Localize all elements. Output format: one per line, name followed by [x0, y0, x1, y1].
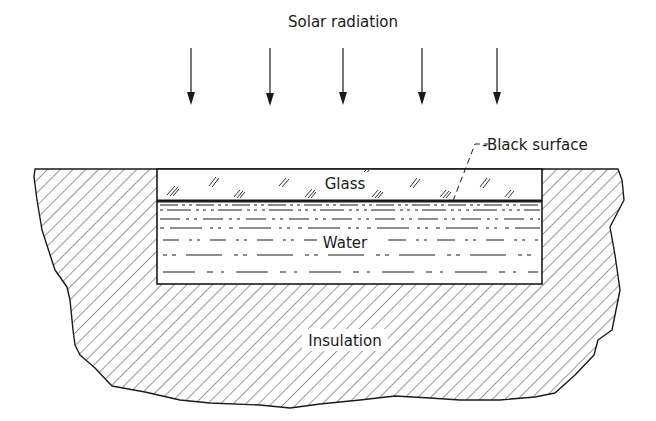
- water-label: Water: [323, 234, 368, 252]
- glass-label: Glass: [325, 175, 366, 193]
- arrowhead-icon: [339, 92, 347, 105]
- arrowhead-icon: [187, 92, 195, 105]
- solar-collector-diagram: Solar radiation: [0, 0, 656, 421]
- arrowhead-icon: [418, 92, 426, 105]
- solar-radiation-label: Solar radiation: [288, 13, 398, 31]
- black-surface-label: -Black surface: [482, 136, 588, 154]
- solar-radiation-arrows: [187, 48, 501, 106]
- insulation-label: Insulation: [308, 332, 381, 350]
- arrowhead-icon: [266, 93, 274, 106]
- arrowhead-icon: [493, 92, 501, 105]
